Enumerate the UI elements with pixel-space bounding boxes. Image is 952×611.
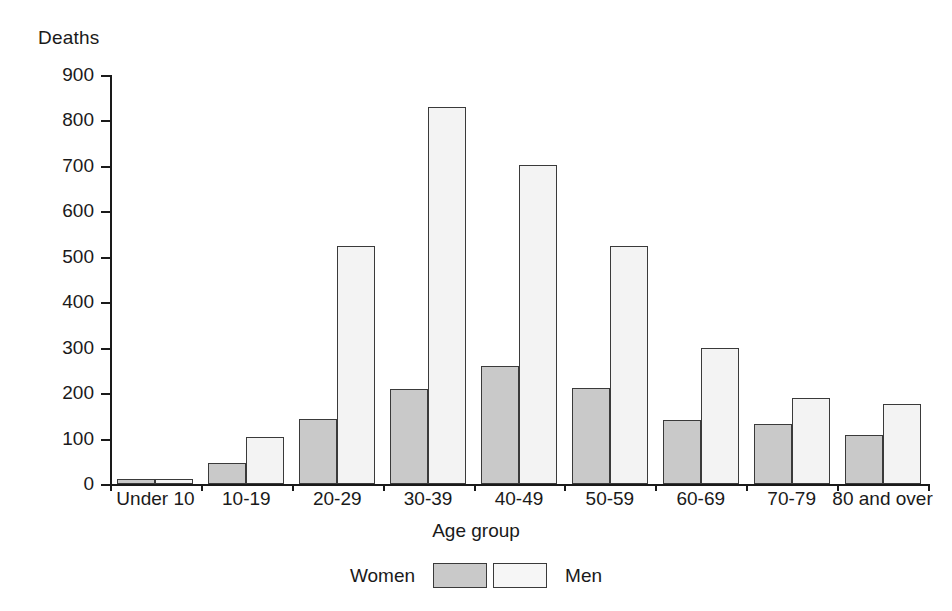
- bar-men: [155, 479, 193, 484]
- bar-women: [117, 479, 155, 484]
- y-axis-tick-label: 500: [62, 247, 94, 266]
- y-axis-tick: 300: [101, 348, 110, 350]
- x-axis-tick: [474, 484, 476, 491]
- x-axis-line: [110, 484, 928, 486]
- bar-group: [564, 75, 655, 484]
- bar-women: [754, 424, 792, 484]
- bar-men: [337, 246, 375, 484]
- y-axis-tick: 0: [101, 484, 110, 486]
- y-axis-tick: 500: [101, 257, 110, 259]
- bar-men: [519, 165, 557, 484]
- bar-men: [246, 437, 284, 484]
- x-axis-category-label: 60-69: [676, 489, 725, 508]
- x-axis-tick: [383, 484, 385, 491]
- y-axis-tick: 900: [101, 75, 110, 77]
- y-axis-tick: 800: [101, 120, 110, 122]
- y-axis-tick-label: 300: [62, 338, 94, 357]
- x-axis-category-label: 30-39: [404, 489, 453, 508]
- bar-men: [883, 404, 921, 484]
- bar-group: [746, 75, 837, 484]
- bar-men: [428, 107, 466, 484]
- y-axis-tick-label: 800: [62, 111, 94, 130]
- bar-men: [610, 246, 648, 484]
- x-axis-category-label: 80 and over: [832, 489, 932, 508]
- x-axis-tick: [201, 484, 203, 491]
- legend-entry-women: Women: [350, 563, 493, 588]
- x-axis-category-label: Under 10: [116, 489, 194, 508]
- x-axis-category-label: 20-29: [313, 489, 362, 508]
- plot-area: 0100200300400500600700800900: [110, 75, 928, 484]
- y-axis-tick-label: 600: [62, 201, 94, 220]
- bar-chart-figure: Deaths 0100200300400500600700800900 Unde…: [0, 0, 952, 611]
- bar-group: [110, 75, 201, 484]
- y-axis-tick: 100: [101, 439, 110, 441]
- bar-women: [481, 366, 519, 484]
- x-axis-category-label: 50-59: [586, 489, 635, 508]
- x-axis-tick: [564, 484, 566, 491]
- x-axis-category-label: 10-19: [222, 489, 271, 508]
- legend-entry-men: Men: [493, 563, 602, 588]
- bar-men: [792, 398, 830, 484]
- x-axis-title: Age group: [0, 521, 952, 540]
- y-axis-tick: 400: [101, 302, 110, 304]
- x-axis-category-label: 40-49: [495, 489, 544, 508]
- bar-group: [837, 75, 928, 484]
- bar-women: [663, 420, 701, 484]
- legend-label-men: Men: [565, 566, 602, 585]
- y-axis-tick-label: 200: [62, 383, 94, 402]
- bar-women: [390, 389, 428, 484]
- y-axis-title: Deaths: [38, 27, 99, 49]
- bar-group: [474, 75, 565, 484]
- bar-group: [655, 75, 746, 484]
- x-axis-category-label: 70-79: [767, 489, 816, 508]
- x-axis-tick: [746, 484, 748, 491]
- y-axis-tick-label: 700: [62, 156, 94, 175]
- bar-group: [383, 75, 474, 484]
- bar-women: [572, 388, 610, 484]
- bar-group: [201, 75, 292, 484]
- chart-legend: Women Men: [0, 563, 952, 588]
- bar-women: [208, 463, 246, 484]
- y-axis-tick-label: 0: [83, 474, 94, 493]
- x-axis-tick: [655, 484, 657, 491]
- legend-swatch-men: [493, 563, 547, 588]
- y-axis-tick: 700: [101, 166, 110, 168]
- y-axis-tick-label: 400: [62, 292, 94, 311]
- x-axis-tick: [110, 484, 112, 491]
- bar-men: [701, 348, 739, 484]
- bar-women: [299, 419, 337, 484]
- legend-label-women: Women: [350, 566, 415, 585]
- bar-women: [845, 435, 883, 484]
- y-axis-tick: 200: [101, 393, 110, 395]
- y-axis-tick-label: 100: [62, 429, 94, 448]
- x-axis-tick: [292, 484, 294, 491]
- bar-group: [292, 75, 383, 484]
- legend-swatch-women: [433, 563, 487, 588]
- y-axis-tick-label: 900: [62, 65, 94, 84]
- y-axis-tick: 600: [101, 211, 110, 213]
